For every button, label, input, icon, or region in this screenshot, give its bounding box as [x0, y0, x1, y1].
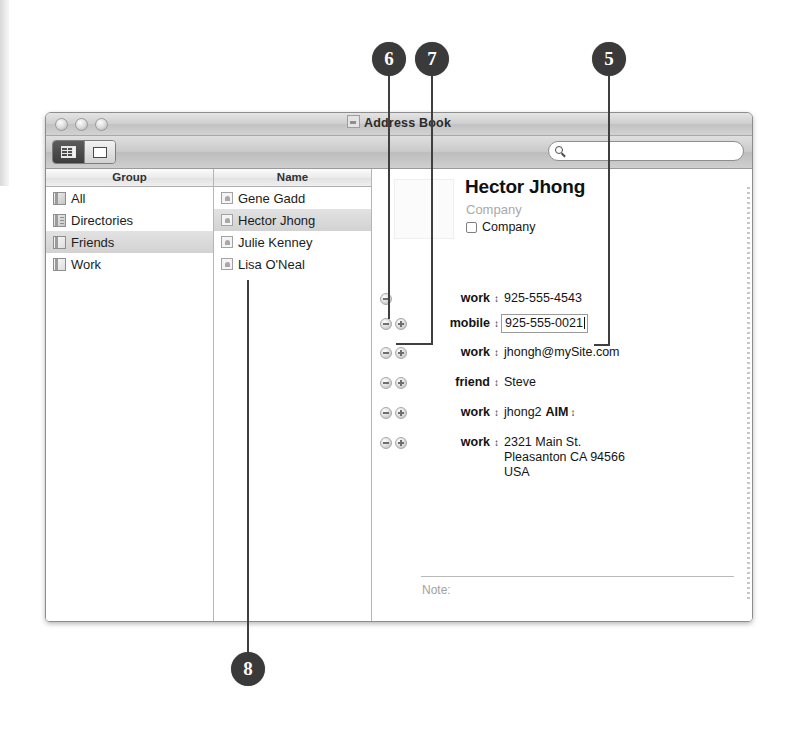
field-label-stepper-icon[interactable]: ↕ [492, 435, 501, 450]
window-toolbar [46, 136, 752, 169]
callout-7-leader-horizontal [396, 343, 433, 345]
name-item-label: Julie Kenney [238, 235, 312, 250]
note-separator [421, 576, 734, 577]
person-card-icon [221, 258, 233, 270]
field-label-stepper-icon[interactable]: ↕ [492, 375, 501, 390]
field-label[interactable]: work [372, 435, 492, 449]
name-column: Name Gene Gadd Hector Jhong Julie Kenney… [214, 169, 372, 621]
callout-5-leader [608, 74, 610, 345]
callout-8-leader [247, 280, 249, 652]
card-column: Hector Jhong Company Company work [372, 169, 752, 621]
list-item[interactable]: Julie Kenney [214, 231, 371, 253]
callout-5-leader-horizontal [594, 344, 610, 346]
list-item[interactable]: Gene Gadd [214, 187, 371, 209]
field-label-stepper-icon[interactable]: ↕ [492, 345, 501, 360]
field-label-stepper-icon[interactable]: ↕ [492, 405, 501, 420]
callout-8: 8 [231, 652, 265, 686]
contact-card: Hector Jhong Company Company work [372, 169, 752, 604]
callout-6-leader [388, 74, 390, 319]
search-input[interactable] [569, 144, 735, 158]
person-card-icon [221, 214, 233, 226]
company-checkbox-row[interactable]: Company [466, 220, 536, 234]
window-title: Address Book [364, 116, 451, 130]
callout-5: 5 [592, 42, 626, 76]
window-bottom-bar: Edit 4 cards [46, 621, 752, 622]
group-icon [53, 236, 66, 249]
field-row: friend ↕ Steve [372, 375, 752, 405]
directories-icon [53, 214, 66, 227]
field-value[interactable]: jhong2 [504, 405, 542, 420]
sidebar-item-work[interactable]: Work [46, 253, 213, 275]
page-scan-edge [0, 0, 9, 186]
group-column-header: Group [46, 169, 213, 187]
note-label[interactable]: Note: [422, 583, 451, 597]
view-mode-segmented-control[interactable] [52, 140, 116, 164]
group-item-label: Friends [71, 235, 114, 250]
window-title-area: Address Book [46, 115, 752, 130]
name-item-label: Hector Jhong [238, 213, 315, 228]
company-checkbox[interactable] [466, 222, 477, 233]
field-row: mobile ↕ 925-555-0021 [372, 316, 752, 345]
text-caret [584, 317, 585, 329]
company-placeholder[interactable]: Company [466, 202, 522, 217]
field-list: work ↕ 925-555-4543 mobile ↕ [372, 291, 752, 480]
card-icon [93, 147, 107, 158]
group-item-label: Directories [71, 213, 133, 228]
sidebar-item-directories[interactable]: Directories [46, 209, 213, 231]
field-value-text: 925-555-0021 [505, 316, 583, 330]
group-item-label: Work [71, 257, 101, 272]
field-label-stepper-icon[interactable]: ↕ [492, 316, 501, 331]
group-item-label: All [71, 191, 85, 206]
name-column-header: Name [214, 169, 371, 187]
field-label[interactable]: work [372, 405, 492, 419]
sidebar-item-friends[interactable]: Friends [46, 231, 213, 253]
address-book-icon [347, 115, 360, 128]
three-pane-icon [61, 146, 76, 158]
field-row: work ↕ jhongh@mySite.com [372, 345, 752, 375]
field-value[interactable]: jhongh@mySite.com [504, 345, 620, 360]
address-book-icon [53, 192, 66, 205]
company-checkbox-label: Company [482, 220, 536, 234]
im-service-label[interactable]: AIM [546, 405, 569, 420]
field-label-stepper-icon[interactable]: ↕ [492, 291, 501, 306]
group-icon [53, 258, 66, 271]
contact-name: Hector Jhong [465, 176, 585, 198]
card-scrollbar[interactable] [747, 187, 750, 602]
window-body: Group All Directories Friends Work Name [46, 169, 752, 621]
person-card-icon [221, 192, 233, 204]
search-icon [555, 146, 563, 154]
group-column: Group All Directories Friends Work [46, 169, 214, 621]
field-row: work ↕ 2321 Main St. Pleasanton CA 94566… [372, 435, 752, 480]
person-card-icon [221, 236, 233, 248]
address-book-window: Address Book Group All [45, 112, 753, 622]
name-item-label: Gene Gadd [238, 191, 305, 206]
field-label[interactable]: work [372, 345, 492, 359]
field-value[interactable]: 2321 Main St. Pleasanton CA 94566 USA [504, 435, 625, 480]
field-value[interactable]: Steve [504, 375, 536, 390]
search-field[interactable] [548, 141, 744, 161]
callout-7-leader-vertical [431, 74, 433, 344]
three-pane-view-button[interactable] [53, 141, 84, 163]
list-item[interactable]: Hector Jhong [214, 209, 371, 231]
name-item-label: Lisa O'Neal [238, 257, 305, 272]
callout-6: 6 [372, 42, 406, 76]
sidebar-item-all[interactable]: All [46, 187, 213, 209]
field-value-editing[interactable]: 925-555-0021 [501, 314, 588, 333]
im-service-stepper-icon[interactable]: ↕ [568, 405, 577, 420]
list-item[interactable]: Lisa O'Neal [214, 253, 371, 275]
field-label[interactable]: friend [372, 375, 492, 389]
callout-7: 7 [415, 42, 449, 76]
field-row: work ↕ 925-555-4543 [372, 291, 752, 316]
photo-well[interactable] [394, 179, 454, 239]
single-card-view-button[interactable] [84, 141, 115, 163]
field-row: work ↕ jhong2 AIM ↕ [372, 405, 752, 435]
field-value[interactable]: 925-555-4543 [504, 291, 582, 306]
window-titlebar: Address Book [46, 113, 752, 136]
